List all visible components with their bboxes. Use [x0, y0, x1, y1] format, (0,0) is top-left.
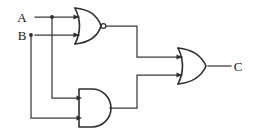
- output-label-c: C: [234, 59, 243, 74]
- nor-gate-inversion-bubble: [101, 24, 106, 29]
- circuit-canvas: A B C: [0, 0, 255, 131]
- wire-a-branch-to-and: [52, 17, 79, 98]
- nor-gate-back-arc: [75, 8, 80, 44]
- input-label-a: A: [17, 10, 27, 25]
- junction-dot-b: [29, 33, 33, 37]
- junction-dot-a: [50, 15, 54, 19]
- gate-and[interactable]: [77, 89, 112, 127]
- gate-or[interactable]: [177, 48, 207, 84]
- wire-and-to-or: [110, 75, 182, 108]
- or-gate-back-arc: [178, 48, 183, 84]
- gate-nor[interactable]: [74, 8, 106, 44]
- logic-circuit-diagram: A B C: [0, 0, 255, 131]
- input-label-b: B: [18, 28, 27, 43]
- wire-b-branch-to-and: [31, 35, 79, 118]
- and-gate-body: [79, 89, 111, 127]
- wire-nor-to-or: [102, 26, 182, 57]
